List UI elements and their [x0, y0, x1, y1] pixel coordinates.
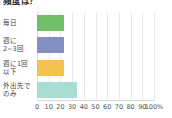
category-label-line: 以下	[3, 68, 17, 76]
x-tick-label: 100%	[145, 103, 164, 112]
category-label-line: のみ	[3, 90, 17, 98]
category-label-line: 2~3回	[3, 45, 24, 53]
category-label-line: 外出先で	[3, 82, 31, 90]
bar-chart: 頻度は？ 毎日週に2~3回週に1回以下外出先でのみ 01020304050607…	[0, 0, 172, 118]
bar[interactable]	[37, 15, 64, 31]
category-axis-labels: 毎日週に2~3回週に1回以下外出先でのみ	[0, 12, 35, 101]
x-tick-label: 20	[56, 103, 64, 112]
category-label: 週に1回以下	[0, 57, 35, 79]
bar[interactable]	[37, 60, 64, 76]
x-tick-label: 60	[103, 103, 111, 112]
category-label-line: 週に	[3, 37, 17, 45]
x-tick-label: 30	[68, 103, 76, 112]
gridline	[154, 12, 155, 101]
x-axis-line	[37, 100, 154, 101]
x-tick-label: 10	[45, 103, 53, 112]
bar[interactable]	[37, 82, 77, 98]
bar-row	[37, 12, 154, 34]
x-tick-label: 50	[91, 103, 99, 112]
x-tick-label: 0	[35, 103, 39, 112]
bar-row	[37, 57, 154, 79]
bar-row	[37, 34, 154, 56]
x-axis-tick-labels: 0102030405060708090100%	[37, 103, 160, 115]
plot-area	[37, 12, 154, 101]
category-label-line: 毎日	[3, 19, 17, 27]
category-label-line: 週に1回	[3, 60, 28, 68]
bar-row	[37, 79, 154, 101]
x-tick-label: 80	[126, 103, 134, 112]
category-label: 毎日	[0, 12, 35, 34]
x-tick-label: 70	[115, 103, 123, 112]
category-label: 外出先でのみ	[0, 79, 35, 101]
category-label: 週に2~3回	[0, 34, 35, 56]
bar[interactable]	[37, 37, 64, 53]
chart-title: 頻度は？	[3, 0, 123, 7]
x-tick-label: 40	[80, 103, 88, 112]
bar-series	[37, 12, 154, 101]
